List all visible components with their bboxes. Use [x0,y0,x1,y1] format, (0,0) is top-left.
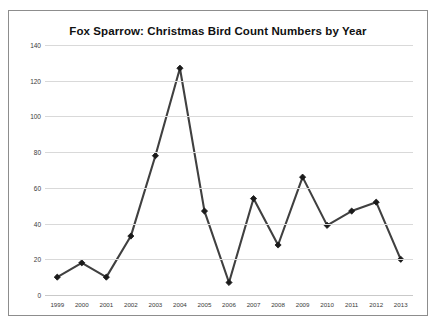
y-tick-label: 60 [15,184,41,191]
gridline [45,188,413,189]
gridline [45,81,413,82]
gridline [45,45,413,46]
x-tick-label: 2003 [149,301,163,308]
x-axis: 1999200020012002200320042005200620072008… [45,299,413,315]
y-tick-label: 20 [15,256,41,263]
line-series [45,45,413,295]
data-point-marker [226,279,232,285]
data-point-marker [152,153,158,159]
gridline [45,295,413,296]
data-point-marker [373,199,379,205]
x-tick-label: 2012 [369,301,383,308]
x-tick-label: 2013 [394,301,408,308]
y-tick-label: 80 [15,149,41,156]
x-tick-label: 2005 [198,301,212,308]
chart-frame: Fox Sparrow: Christmas Bird Count Number… [8,10,428,316]
x-tick-label: 1999 [50,301,64,308]
x-tick-label: 2001 [99,301,113,308]
data-point-marker [177,65,183,71]
y-tick-label: 140 [15,42,41,49]
y-axis: 020406080100120140 [13,45,41,295]
chart-title: Fox Sparrow: Christmas Bird Count Number… [9,25,427,37]
gridline [45,116,413,117]
plot-area [45,45,413,295]
gridline [45,259,413,260]
gridline [45,152,413,153]
y-tick-label: 40 [15,220,41,227]
y-tick-label: 0 [15,292,41,299]
x-tick-label: 2004 [173,301,187,308]
y-tick-label: 100 [15,113,41,120]
x-tick-label: 2000 [75,301,89,308]
x-tick-label: 2002 [124,301,138,308]
x-tick-label: 2010 [320,301,334,308]
gridline [45,224,413,225]
x-tick-label: 2009 [296,301,310,308]
x-tick-label: 2006 [222,301,236,308]
x-tick-label: 2007 [247,301,261,308]
x-tick-label: 2008 [271,301,285,308]
data-point-marker [201,208,207,214]
x-tick-label: 2011 [345,301,358,308]
series-line [57,68,400,282]
y-tick-label: 120 [15,77,41,84]
